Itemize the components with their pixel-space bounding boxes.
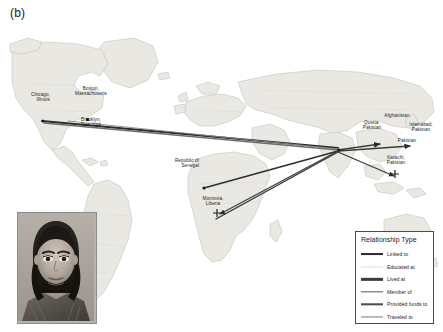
marker-chicago bbox=[42, 120, 45, 123]
figure-panel-b: (b) bbox=[0, 0, 443, 332]
legend-label-educated-at: Educated at bbox=[385, 264, 415, 270]
map-label-liberia: Monrovia, Liberia bbox=[190, 196, 236, 207]
legend-item-educated-at: Educated at bbox=[356, 261, 433, 274]
legend-swatch-linked-to bbox=[360, 249, 385, 259]
marker-pakistan-hub bbox=[337, 148, 340, 151]
map-label-boston: Boston, Massachusetts bbox=[61, 86, 121, 97]
legend-label-lived-at: Lived at bbox=[385, 276, 405, 282]
map-label-brooklyn: Brooklyn, New York bbox=[63, 117, 119, 128]
legend-item-traveled-to: Traveled to bbox=[356, 311, 433, 324]
legend-label-linked-to: Linked to bbox=[385, 251, 408, 257]
portrait-photograph-graphic bbox=[18, 213, 94, 321]
legend-label-traveled-to: Traveled to bbox=[385, 314, 413, 320]
legend-item-member-of: Member of bbox=[356, 286, 433, 299]
legend-swatch-educated-at bbox=[360, 262, 385, 272]
panel-label: (b) bbox=[10, 6, 25, 20]
map-label-islamabad: Islamabad, Pakistan bbox=[398, 122, 443, 133]
legend-item-provided-funds-to: Provided funds to bbox=[356, 298, 433, 311]
legend-relationship-type: Relationship Type Linked to Educated at … bbox=[355, 231, 434, 324]
map-label-chicago: Chicago, Illinois bbox=[4, 92, 50, 103]
legend-item-linked-to: Linked to bbox=[356, 248, 433, 261]
map-label-afghanistan: Afghanistan bbox=[372, 113, 422, 118]
marker-senegal bbox=[202, 186, 205, 189]
legend-title: Relationship Type bbox=[361, 236, 417, 243]
map-label-karachi: Karachi, Pakistan bbox=[373, 155, 419, 166]
legend-swatch-provided-funds-to bbox=[360, 299, 385, 309]
map-label-quetta: Quetta, Pakistan bbox=[350, 120, 394, 131]
map-label-senegal: Republic of Senegal bbox=[151, 158, 199, 169]
portrait-photograph-inset bbox=[17, 212, 97, 324]
legend-item-lived-at: Lived at bbox=[356, 273, 433, 286]
legend-items-list: Linked to Educated at Lived at Member of bbox=[356, 248, 433, 323]
legend-swatch-traveled-to bbox=[360, 312, 385, 322]
map-label-pakistan: Pakistan bbox=[386, 138, 428, 143]
legend-label-provided-funds-to: Provided funds to bbox=[385, 301, 427, 307]
legend-label-member-of: Member of bbox=[385, 289, 412, 295]
legend-swatch-member-of bbox=[360, 287, 385, 297]
legend-swatch-lived-at bbox=[360, 274, 385, 284]
